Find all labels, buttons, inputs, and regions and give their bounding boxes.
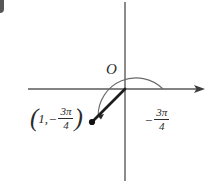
point-label-comma: , xyxy=(45,112,48,125)
angle-label: − 3π 4 xyxy=(145,107,170,132)
angle-numerator: 3π xyxy=(155,107,168,119)
point-label-row: ( 1 , − 3π 4 ) xyxy=(30,106,83,131)
point-angle-fraction: 3π 4 xyxy=(58,106,73,131)
angle-label-row: − 3π 4 xyxy=(145,107,170,132)
angle-denominator: 4 xyxy=(158,120,166,132)
close-paren: ) xyxy=(74,105,82,130)
plotted-point-marker xyxy=(89,119,95,125)
open-paren: ( xyxy=(30,105,38,130)
point-label: ( 1 , − 3π 4 ) xyxy=(30,106,83,131)
point-angle-minus-sign: − xyxy=(49,113,56,126)
point-angle-denominator: 4 xyxy=(62,119,70,131)
terminal-ray xyxy=(94,89,126,121)
polar-coordinate-figure: O ( 1 , − 3π 4 ) − 3π 4 xyxy=(0,0,210,183)
point-angle-numerator: 3π xyxy=(59,106,72,118)
angle-fraction: 3π 4 xyxy=(154,107,169,132)
axes-and-ray-drawing xyxy=(0,0,210,183)
angle-minus-sign: − xyxy=(145,114,152,127)
origin-label: O xyxy=(106,62,117,77)
